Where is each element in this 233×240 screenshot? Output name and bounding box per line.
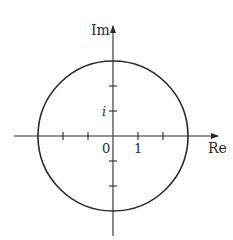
real-one-label: 1 — [134, 141, 142, 156]
origin-label: 0 — [102, 141, 110, 156]
complex-plane-diagram: Im Re 0 1 i — [0, 0, 233, 240]
imag-unit-label: i — [102, 104, 106, 119]
re-axis-label: Re — [208, 140, 227, 156]
im-axis-label: Im — [91, 22, 110, 38]
